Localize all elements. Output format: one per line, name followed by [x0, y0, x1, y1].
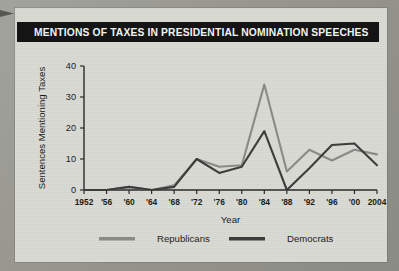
x-axis-tick-label: 2004	[368, 197, 387, 207]
chart-title-bar: MENTIONS OF TAXES IN PRESIDENTIAL NOMINA…	[17, 22, 379, 42]
chart-axes	[80, 66, 377, 194]
chart-labels: 0102030401952'56'60'64'68'72'76'80'84'88…	[36, 61, 387, 225]
legend-label-republicans[interactable]: Republicans	[157, 233, 210, 244]
y-axis-tick-label: 30	[66, 92, 76, 102]
series-line-republicans	[84, 85, 377, 190]
y-axis-tick-label: 20	[66, 123, 76, 133]
x-axis-tick-label: '92	[304, 197, 316, 207]
x-axis-tick-label: '84	[259, 197, 271, 207]
screenshot-root: MENTIONS OF TAXES IN PRESIDENTIAL NOMINA…	[0, 0, 399, 271]
line-chart-svg: 0102030401952'56'60'64'68'72'76'80'84'88…	[15, 46, 387, 256]
x-axis-tick-label: '56	[101, 197, 113, 207]
page-title: MENTIONS OF TAXES IN PRESIDENTIAL NOMINA…	[17, 27, 369, 38]
x-axis-title: Year	[221, 214, 241, 225]
x-axis-tick-label: '64	[146, 197, 158, 207]
page-edge-marker	[0, 10, 14, 17]
y-axis-tick-label: 40	[66, 61, 76, 71]
x-axis-tick-label: '60	[123, 197, 135, 207]
chart-legend[interactable]: RepublicansDemocrats	[99, 233, 334, 244]
y-axis-tick-label: 10	[66, 154, 76, 164]
chart-series	[84, 85, 377, 190]
x-axis-tick-label: '00	[349, 197, 361, 207]
chart-figure: 0102030401952'56'60'64'68'72'76'80'84'88…	[15, 46, 387, 256]
x-axis-tick-label: '76	[214, 197, 226, 207]
x-axis-tick-label: '72	[191, 197, 203, 207]
y-axis-title: Sentences Mentioning Taxes	[36, 67, 47, 190]
x-axis-tick-label: 1952	[75, 197, 94, 207]
x-axis-tick-label: '88	[281, 197, 293, 207]
x-axis-tick-label: '80	[236, 197, 248, 207]
y-axis-tick-label: 0	[71, 185, 76, 195]
x-axis-tick-label: '68	[168, 197, 180, 207]
x-axis-tick-label: '96	[326, 197, 338, 207]
legend-label-democrats[interactable]: Democrats	[287, 233, 334, 244]
